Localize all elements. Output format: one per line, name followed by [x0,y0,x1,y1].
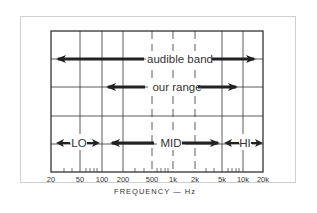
tick-label: 50 [76,175,84,184]
tick-label: 100 [96,175,109,184]
hi-band-label: HI [239,137,251,149]
tick-label: 5k [218,175,226,184]
tick-label: 20k [257,175,269,184]
x-axis-tick-labels: 20 50 100 200 500 1k 2k 5k 10k 20k [47,175,269,184]
lo-band-label: LO [71,137,86,149]
tick-label: 200 [117,175,130,184]
tick-label: 500 [146,175,159,184]
tick-label: 1k [169,175,177,184]
x-axis-label: FREQUENCY — Hz [114,187,196,196]
frequency-band-diagram: audible band our range LO MID HI 20 50 1… [0,0,317,213]
tick-label: 2k [191,175,199,184]
tick-label: 10k [237,175,249,184]
mid-band-label: MID [160,137,181,149]
audible-band-label: audible band [147,53,213,65]
our-range-label: our range [152,81,201,93]
tick-label: 20 [47,175,55,184]
